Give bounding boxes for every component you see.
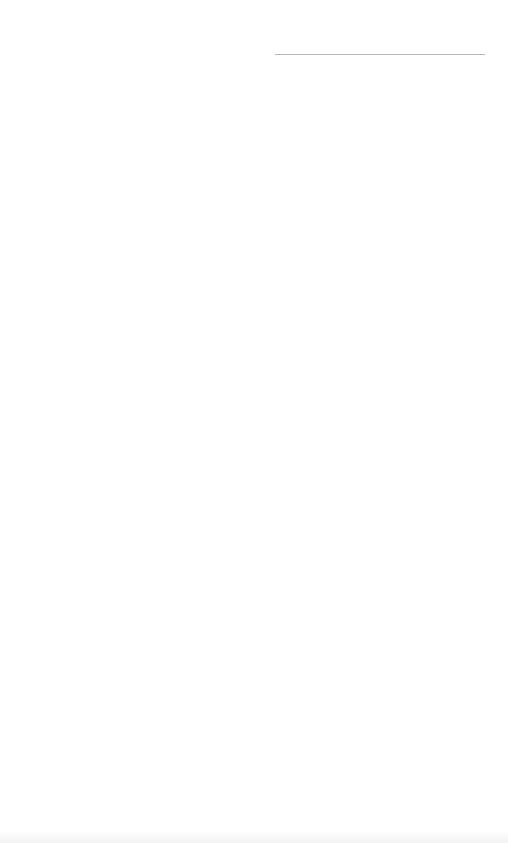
page-bottom-edge [0,831,508,843]
header-name-line [275,54,485,55]
